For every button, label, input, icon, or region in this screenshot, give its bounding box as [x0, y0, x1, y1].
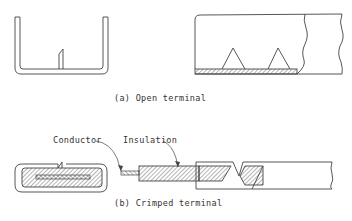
caption-crimped-terminal: (b) Crimped terminal	[114, 198, 222, 208]
crimped-terminal-end-view	[15, 162, 107, 192]
conductor-leader	[96, 141, 121, 171]
open-terminal-side-view	[195, 14, 343, 74]
open-terminal-end-view	[15, 17, 108, 74]
insulation-label: Insulation	[123, 135, 177, 145]
terminal-diagram	[0, 0, 352, 221]
crimped-terminal-side-view	[121, 162, 333, 189]
caption-open-terminal: (a) Open terminal	[114, 93, 206, 103]
conductor-label: Conductor	[53, 135, 102, 145]
